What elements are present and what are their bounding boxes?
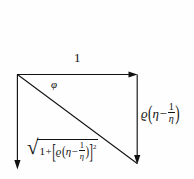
vector-diagram-figure: 1 φ ϱ ( η − 1 η ) √ 1 + [ ϱ ( xyxy=(0,0,194,179)
label-unit-length: 1 xyxy=(74,51,81,64)
fraction-denominator: η xyxy=(168,112,175,124)
open-paren: ( xyxy=(148,103,152,123)
radicand: 1 + [ ϱ ( η − 1 η ) ] 2 xyxy=(37,139,98,161)
label-phi-angle: φ xyxy=(51,79,57,90)
radical-sign-icon: √ xyxy=(27,140,38,162)
fraction-numerator: 1 xyxy=(168,102,175,113)
label-vertical-component: ϱ ( η − 1 η ) xyxy=(141,102,180,124)
minus-operator: − xyxy=(159,107,167,120)
fraction-denominator-inner: η xyxy=(79,150,85,160)
exponent-two: 2 xyxy=(93,144,96,151)
label-hypotenuse-magnitude: √ 1 + [ ϱ ( η − 1 η ) ] 2 xyxy=(27,139,98,161)
close-paren: ) xyxy=(175,103,179,123)
minus-operator-inner: − xyxy=(71,146,78,157)
expr-rho-eta: ϱ ( η − 1 η ) xyxy=(141,102,180,124)
arrowhead-down-left-icon xyxy=(14,160,20,170)
plus-operator: + xyxy=(45,146,52,157)
fraction-one-over-eta: 1 η xyxy=(168,102,175,124)
rho-symbol: ϱ xyxy=(141,107,148,120)
open-bracket: [ xyxy=(52,140,56,161)
fraction-one-over-eta-inner: 1 η xyxy=(79,141,85,160)
arrowhead-right-icon xyxy=(129,71,138,77)
expr-sqrt: √ 1 + [ ϱ ( η − 1 η ) ] 2 xyxy=(27,139,98,161)
open-paren-inner: ( xyxy=(62,144,66,159)
fraction-numerator-inner: 1 xyxy=(79,141,85,150)
